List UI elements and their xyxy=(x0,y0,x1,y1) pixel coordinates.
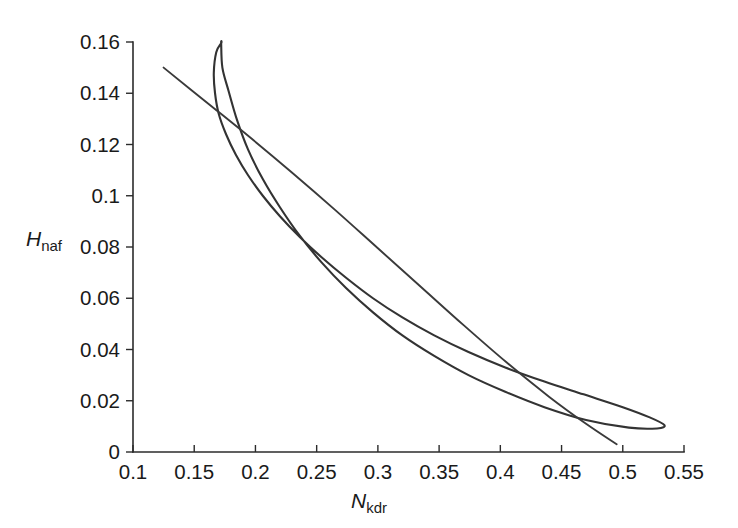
x-tick-label: 0.45 xyxy=(542,462,582,483)
y-tick-label: 0.1 xyxy=(92,186,121,207)
data-curves xyxy=(164,41,665,444)
y-axis-ticks xyxy=(126,42,133,452)
y-tick-label: 0.04 xyxy=(80,339,120,360)
x-axis-symbol: N xyxy=(351,489,366,512)
x-tick-label: 0.55 xyxy=(664,462,704,483)
y-tick-label: 0.08 xyxy=(80,237,120,258)
y-axis-symbol: H xyxy=(26,227,41,250)
x-tick-label: 0.3 xyxy=(364,462,393,483)
y-axis-title: Hnaf xyxy=(26,228,62,253)
x-tick-label: 0.35 xyxy=(419,462,459,483)
x-axis-subscript: kdr xyxy=(366,499,387,516)
y-tick-label: 0.02 xyxy=(80,391,120,412)
x-axis-ticks xyxy=(133,445,684,452)
x-tick-label: 0.5 xyxy=(609,462,638,483)
x-axis-title: Nkdr xyxy=(351,490,387,515)
y-axis-subscript: naf xyxy=(41,237,62,254)
x-tick-label: 0.15 xyxy=(174,462,214,483)
curve-straight-nullcline xyxy=(164,68,617,445)
x-tick-label: 0.2 xyxy=(241,462,270,483)
chart-figure: 00.020.040.060.080.10.120.140.16 0.10.15… xyxy=(0,0,738,528)
axes-group xyxy=(126,42,684,452)
x-tick-label: 0.25 xyxy=(297,462,337,483)
x-tick-label: 0.4 xyxy=(486,462,515,483)
y-tick-label: 0.14 xyxy=(80,83,120,104)
y-tick-label: 0.06 xyxy=(80,288,120,309)
x-tick-label: 0.1 xyxy=(119,462,148,483)
y-tick-label: 0.16 xyxy=(80,32,120,53)
curve-closed-loop-nullcline xyxy=(214,41,665,429)
y-tick-label: 0.12 xyxy=(80,134,120,155)
